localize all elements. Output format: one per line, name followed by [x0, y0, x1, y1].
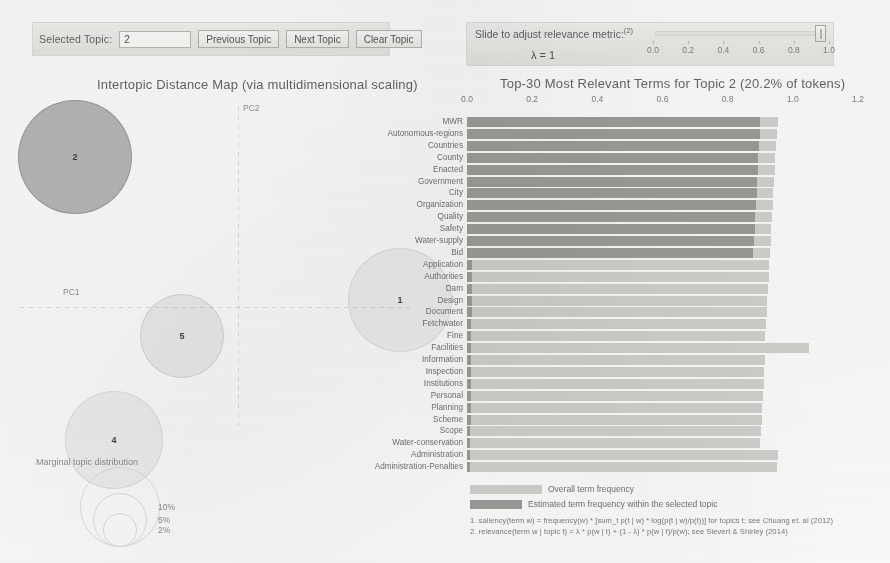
- topic-frequency-bar: [467, 260, 472, 270]
- term-bar-row[interactable]: MWR: [467, 117, 858, 127]
- topic-frequency-bar: [467, 379, 471, 389]
- term-label: MWR: [443, 116, 467, 127]
- term-bar-row[interactable]: Enacted: [467, 165, 858, 175]
- topic-frequency-bar: [467, 224, 755, 234]
- term-label: Dam: [446, 283, 467, 294]
- topic-frequency-bar: [467, 117, 760, 127]
- term-bar-row[interactable]: County: [467, 153, 858, 163]
- x-tick-1-0: 1.0: [787, 94, 799, 104]
- overall-frequency-bar: [467, 450, 778, 460]
- overall-frequency-bar: [467, 260, 769, 270]
- footnote-relevance: 2. relevance(term w | topic t) = λ * p(w…: [470, 527, 788, 536]
- term-bar-row[interactable]: Application: [467, 260, 858, 270]
- term-bar-row[interactable]: Institutions: [467, 379, 858, 389]
- term-label: Autonomous-regions: [387, 128, 467, 139]
- term-bar-row[interactable]: Administration-Penalties: [467, 462, 858, 472]
- topic-frequency-bar: [467, 462, 470, 472]
- overall-frequency-bar: [467, 426, 761, 436]
- legend-overall-frequency: Overall term frequency: [470, 484, 634, 494]
- topic-frequency-bar: [467, 367, 471, 377]
- topic-frequency-bar: [467, 403, 471, 413]
- term-bar-row[interactable]: Autonomous-regions: [467, 129, 858, 139]
- term-label: Personal: [431, 390, 467, 401]
- topic-frequency-bar: [467, 355, 471, 365]
- footnote-saliency: 1. saliency(term w) = frequency(w) * [su…: [470, 516, 833, 525]
- term-bar-row[interactable]: Personal: [467, 391, 858, 401]
- term-bar-row[interactable]: Bid: [467, 248, 858, 258]
- term-bar-row[interactable]: Quality: [467, 212, 858, 222]
- term-bar-row[interactable]: Administration: [467, 450, 858, 460]
- term-label: Planning: [431, 402, 467, 413]
- legend-label-topic: Estimated term frequency within the sele…: [528, 499, 717, 509]
- term-bar-row[interactable]: Scope: [467, 426, 858, 436]
- topic-frequency-bar: [467, 391, 471, 401]
- term-label: Administration-Penalties: [375, 461, 467, 472]
- term-label: Water-supply: [415, 235, 467, 246]
- topic-frequency-bar: [467, 331, 471, 341]
- term-bar-row[interactable]: Fine: [467, 331, 858, 341]
- overall-frequency-bar: [467, 438, 760, 448]
- topic-frequency-bar: [467, 248, 753, 258]
- topic-frequency-bar: [467, 296, 472, 306]
- term-bar-row[interactable]: Water-conservation: [467, 438, 858, 448]
- term-label: Safety: [440, 223, 467, 234]
- overall-frequency-bar: [467, 296, 767, 306]
- term-label: Scope: [440, 425, 467, 436]
- term-label: Organization: [417, 199, 467, 210]
- term-label: Government: [418, 176, 467, 187]
- term-label: Fetchwater: [423, 318, 468, 329]
- overall-frequency-bar: [467, 415, 762, 425]
- term-bar-row[interactable]: Water-supply: [467, 236, 858, 246]
- term-bar-row[interactable]: Authorities: [467, 272, 858, 282]
- term-label: Enacted: [433, 164, 467, 175]
- term-bar-row[interactable]: Organization: [467, 200, 858, 210]
- legend-topic-frequency: Estimated term frequency within the sele…: [470, 499, 717, 509]
- term-label: Administration: [411, 449, 467, 460]
- topic-frequency-bar: [467, 343, 471, 353]
- term-bar-row[interactable]: Fetchwater: [467, 319, 858, 329]
- overall-frequency-bar: [467, 272, 769, 282]
- topic-frequency-bar: [467, 307, 472, 317]
- term-label: City: [449, 187, 467, 198]
- term-bar-row[interactable]: Facilities: [467, 343, 858, 353]
- topic-frequency-bar: [467, 177, 757, 187]
- legend-swatch-topic: [470, 500, 522, 509]
- term-label: Information: [422, 354, 467, 365]
- overall-frequency-bar: [467, 462, 777, 472]
- term-bar-row[interactable]: Planning: [467, 403, 858, 413]
- topic-frequency-bar: [467, 141, 759, 151]
- term-label: County: [437, 152, 467, 163]
- term-bar-row[interactable]: Government: [467, 177, 858, 187]
- x-tick-0-6: 0.6: [657, 94, 669, 104]
- overall-frequency-bar: [467, 367, 764, 377]
- topic-frequency-bar: [467, 438, 470, 448]
- x-tick-0-4: 0.4: [591, 94, 603, 104]
- overall-frequency-bar: [467, 403, 762, 413]
- overall-frequency-bar: [467, 391, 763, 401]
- term-label: Authorities: [424, 271, 467, 282]
- term-label: Facilities: [431, 342, 467, 353]
- term-label: Scheme: [433, 414, 467, 425]
- term-bar-row[interactable]: Design: [467, 296, 858, 306]
- term-bar-row[interactable]: Inspection: [467, 367, 858, 377]
- term-bar-row[interactable]: Information: [467, 355, 858, 365]
- term-label: Quality: [438, 211, 467, 222]
- topic-frequency-bar: [467, 129, 760, 139]
- term-bar-row[interactable]: Safety: [467, 224, 858, 234]
- topic-frequency-bar: [467, 450, 470, 460]
- term-label: Inspection: [426, 366, 467, 377]
- term-bar-row[interactable]: Document: [467, 307, 858, 317]
- term-bar-row[interactable]: Countries: [467, 141, 858, 151]
- overall-frequency-bar: [467, 319, 766, 329]
- term-bar-row[interactable]: Dam: [467, 284, 858, 294]
- term-bar-row[interactable]: Scheme: [467, 415, 858, 425]
- term-label: Design: [438, 295, 468, 306]
- term-bar-row[interactable]: City: [467, 188, 858, 198]
- overall-frequency-bar: [467, 331, 765, 341]
- overall-frequency-bar: [467, 355, 765, 365]
- topic-frequency-bar: [467, 188, 757, 198]
- x-tick-0-8: 0.8: [722, 94, 734, 104]
- topic-frequency-bar: [467, 272, 472, 282]
- overall-frequency-bar: [467, 284, 768, 294]
- legend-label-overall: Overall term frequency: [548, 484, 634, 494]
